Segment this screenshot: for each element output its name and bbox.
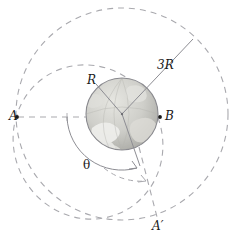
planet-globe (85, 78, 158, 158)
label-point-b: B (165, 110, 174, 122)
orbit-diagram-figure: A B A′ R 3R θ (0, 0, 234, 237)
label-radius-3r: 3R (157, 59, 174, 71)
label-angle-theta: θ (83, 159, 90, 171)
radius-3r-line (122, 39, 193, 114)
center-marker (121, 113, 123, 115)
label-point-a-prime: A′ (152, 220, 163, 232)
point-b-marker (158, 115, 162, 119)
angle-theta-arrowhead (129, 161, 137, 169)
label-radius-r: R (87, 74, 96, 86)
diagram-canvas (0, 0, 234, 237)
label-point-a: A (9, 110, 18, 122)
